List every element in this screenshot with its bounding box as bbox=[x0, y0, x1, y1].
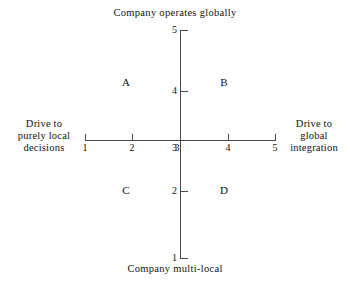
horizontal-tick-label-5: 5 bbox=[268, 143, 282, 153]
horizontal-tick-4 bbox=[228, 134, 229, 141]
vertical-tick-3 bbox=[181, 140, 188, 141]
vertical-tick-label-4: 4 bbox=[163, 86, 177, 96]
vertical-tick-label-1: 1 bbox=[163, 253, 177, 263]
vertical-tick-4 bbox=[181, 91, 188, 92]
quadrant-label-d: D bbox=[216, 185, 232, 196]
horizontal-tick-label-1: 1 bbox=[78, 143, 92, 153]
horizontal-tick-label-3: 3 bbox=[170, 143, 184, 153]
horizontal-tick-1 bbox=[85, 134, 86, 141]
vertical-tick-label-5: 5 bbox=[163, 25, 177, 35]
quadrant-chart: Company operates globally Company multi-… bbox=[0, 0, 350, 281]
top-axis-caption: Company operates globally bbox=[0, 7, 350, 19]
horizontal-tick-label-4: 4 bbox=[221, 143, 235, 153]
right-axis-caption: Drive to global integration bbox=[281, 118, 347, 154]
vertical-tick-5 bbox=[181, 30, 188, 31]
quadrant-label-c: C bbox=[118, 185, 134, 196]
quadrant-label-a: A bbox=[118, 77, 134, 88]
left-axis-caption: Drive to purely local decisions bbox=[8, 118, 80, 154]
bottom-axis-caption: Company multi-local bbox=[0, 263, 350, 275]
left-axis-caption-line-1: Drive to bbox=[8, 118, 80, 130]
quadrant-label-b: B bbox=[216, 77, 232, 88]
left-axis-caption-line-2: purely local bbox=[8, 130, 80, 142]
right-axis-caption-line-1: Drive to bbox=[281, 118, 347, 130]
vertical-tick-2 bbox=[181, 191, 188, 192]
left-axis-caption-line-3: decisions bbox=[8, 142, 80, 154]
horizontal-tick-2 bbox=[132, 134, 133, 141]
vertical-tick-1 bbox=[181, 258, 188, 259]
horizontal-tick-5 bbox=[275, 134, 276, 141]
right-axis-caption-line-3: integration bbox=[281, 142, 347, 154]
vertical-tick-label-2: 2 bbox=[163, 186, 177, 196]
horizontal-tick-3 bbox=[180, 134, 181, 141]
right-axis-caption-line-2: global bbox=[281, 130, 347, 142]
horizontal-tick-label-2: 2 bbox=[125, 143, 139, 153]
